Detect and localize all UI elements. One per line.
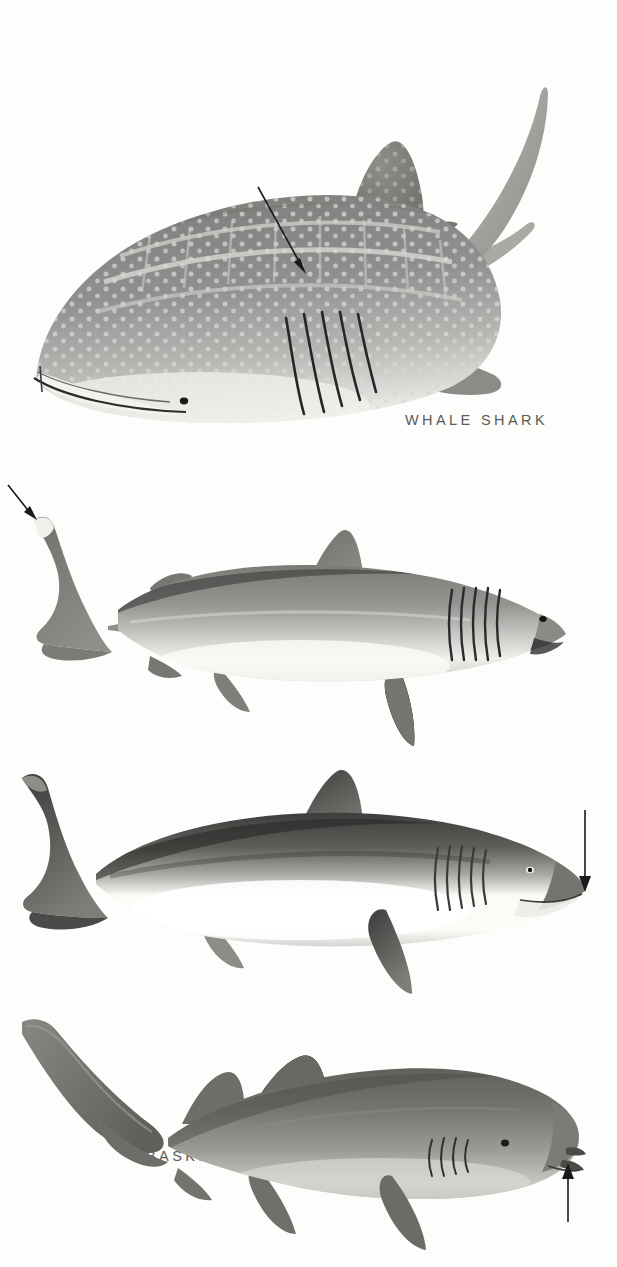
panel-whale-shark: WHALE SHARK <box>0 0 617 470</box>
shark-identification-plate: WHALE SHARK <box>0 0 617 1267</box>
arrow-to-snout <box>579 810 591 892</box>
eye <box>180 398 188 405</box>
caption-whale-shark: WHALE SHARK <box>405 412 548 428</box>
barbel-upper <box>566 1147 586 1155</box>
panel-basking-shark: BASKING SHARK <box>0 470 617 750</box>
caudal-fin-tip <box>22 776 47 792</box>
eye <box>501 1140 509 1147</box>
panel-nurse-shark: NURSE SHARK <box>0 1000 617 1267</box>
anal-fin <box>174 1168 212 1200</box>
eye-pupil <box>528 868 532 872</box>
basking-shark-illustration <box>0 470 617 750</box>
arrow-to-caudal-fin-tip <box>8 485 37 520</box>
caudal-fin <box>22 1019 164 1153</box>
caudal-fin-upper-lobe <box>465 87 548 256</box>
panel-white-shark: WHITE SHARK <box>0 750 617 1000</box>
eye-fill <box>540 616 547 622</box>
barbel-lower <box>560 1160 584 1171</box>
nurse-shark-illustration <box>0 1000 617 1267</box>
arrow-to-barbel <box>562 1163 574 1222</box>
caudal-fin <box>22 774 108 918</box>
whale-shark-illustration <box>0 0 617 470</box>
white-shark-illustration <box>0 750 617 1000</box>
